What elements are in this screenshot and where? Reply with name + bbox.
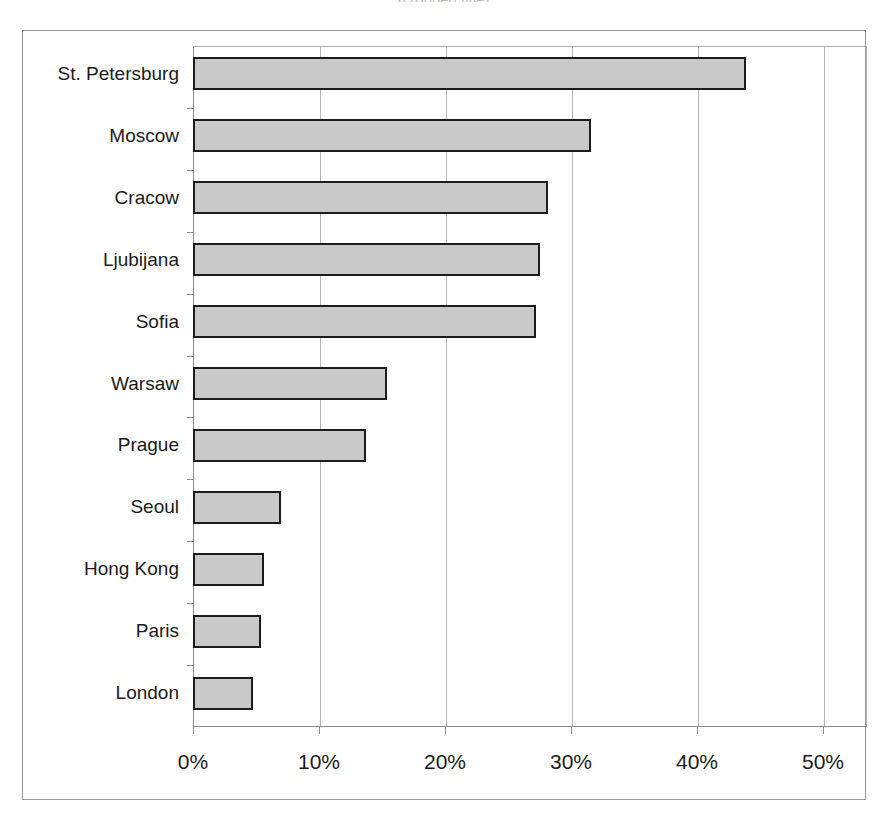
category-label: London: [116, 683, 179, 702]
bar: [193, 429, 366, 462]
category-label: Seoul: [130, 497, 179, 516]
bar: [193, 243, 540, 276]
category-label: Hong Kong: [84, 559, 179, 578]
gridline: [698, 47, 699, 726]
cropped-title-remnant: (cropped title): [0, 0, 887, 2]
y-axis-tick-mark: [187, 603, 193, 604]
category-label: Prague: [118, 435, 179, 454]
x-axis-tick-mark: [571, 727, 572, 734]
x-axis-tick-label: 50%: [802, 751, 844, 772]
y-axis-tick-mark: [187, 479, 193, 480]
y-axis-tick-mark: [187, 417, 193, 418]
y-axis-tick-mark: [187, 665, 193, 666]
bar: [193, 367, 387, 400]
chart-frame: St. PetersburgMoscowCracowLjubijanaSofia…: [22, 30, 866, 800]
category-label: Moscow: [109, 126, 179, 145]
chart-screenshot: (cropped title) St. PetersburgMoscowCrac…: [0, 0, 887, 822]
x-axis-tick-label: 10%: [298, 751, 340, 772]
x-axis-tick-label: 0%: [178, 751, 208, 772]
y-axis-tick-mark: [187, 108, 193, 109]
x-axis-tick-mark: [445, 727, 446, 734]
y-axis-tick-mark: [187, 356, 193, 357]
y-axis-tick-mark: [187, 541, 193, 542]
x-axis-tick-label: 30%: [550, 751, 592, 772]
category-label: St. Petersburg: [58, 64, 179, 83]
category-label: Cracow: [115, 188, 179, 207]
x-axis-tick-mark: [823, 727, 824, 734]
category-label: Ljubijana: [103, 250, 179, 269]
y-axis-tick-mark: [187, 294, 193, 295]
gridline: [824, 47, 825, 726]
x-axis-tick-mark: [193, 727, 194, 734]
y-axis-tick-mark: [187, 232, 193, 233]
bar: [193, 305, 536, 338]
x-axis-tick-mark: [319, 727, 320, 734]
category-label: Warsaw: [111, 374, 179, 393]
bar: [193, 491, 281, 524]
x-axis-tick-label: 40%: [676, 751, 718, 772]
category-label: Sofia: [136, 312, 179, 331]
bar: [193, 677, 253, 710]
bar: [193, 181, 548, 214]
bar: [193, 119, 591, 152]
category-label: Paris: [136, 621, 179, 640]
x-axis-tick-mark: [697, 727, 698, 734]
y-axis-tick-mark: [187, 170, 193, 171]
bar: [193, 57, 746, 90]
bar: [193, 553, 264, 586]
bar: [193, 615, 261, 648]
x-axis-tick-label: 20%: [424, 751, 466, 772]
